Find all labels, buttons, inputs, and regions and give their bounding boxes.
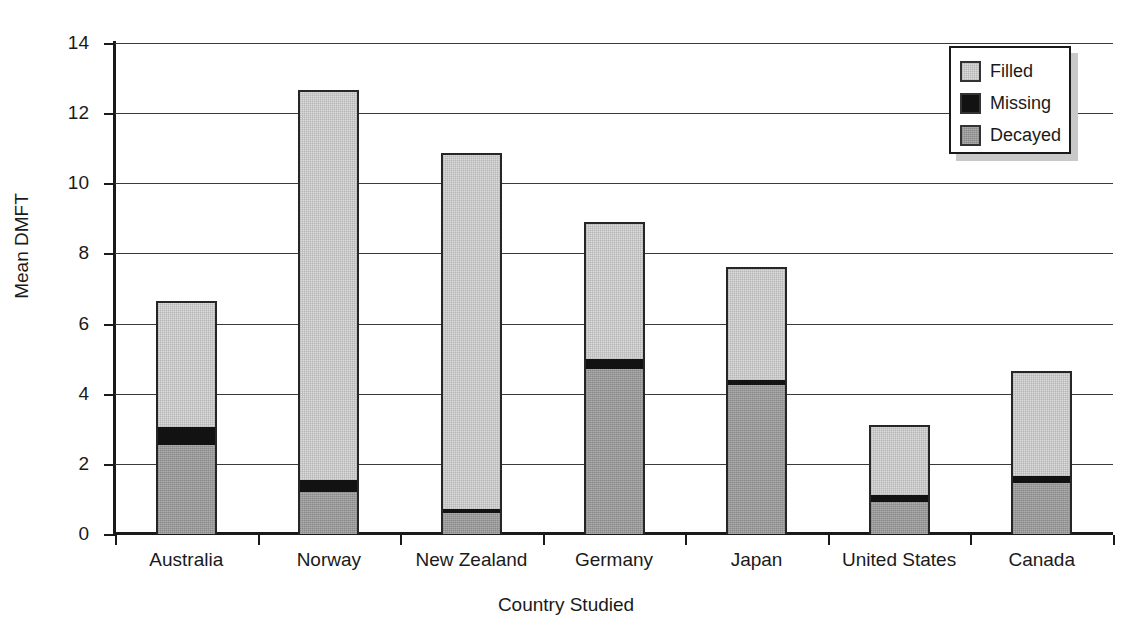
bar-segment-missing: [156, 427, 217, 445]
bar-segment-decayed: [441, 513, 502, 534]
bar-segment-decayed: [869, 502, 930, 534]
bar-norway: [298, 43, 359, 534]
bar-segment-decayed: [726, 385, 787, 534]
legend-label: Decayed: [990, 126, 1061, 144]
legend-items: FilledMissingDecayed: [960, 55, 1069, 151]
bar-segment-filled: [869, 425, 930, 495]
x-tick-mark: [970, 535, 972, 545]
y-tick-mark: [104, 183, 113, 185]
x-category-label: Japan: [685, 549, 828, 571]
y-tick-label: 0: [29, 524, 89, 543]
legend-item-filled[interactable]: Filled: [960, 55, 1069, 87]
y-tick-mark: [104, 394, 113, 396]
bar-segment-filled: [298, 90, 359, 479]
y-tick-label: 12: [29, 103, 89, 122]
bar-segment-missing: [298, 480, 359, 492]
bar-segment-missing: [441, 509, 502, 513]
y-tick-label: 2: [29, 454, 89, 473]
y-tick-label: 6: [29, 314, 89, 333]
x-category-label: United States: [828, 549, 971, 571]
x-tick-mark: [258, 535, 260, 545]
y-tick-mark: [104, 113, 113, 115]
y-tick-mark: [104, 534, 113, 536]
bar-new-zealand: [441, 43, 502, 534]
chart-figure: Mean DMFT 02468101214 AustraliaNorwayNew…: [0, 0, 1132, 633]
x-category-label: Norway: [258, 549, 401, 571]
bar-japan: [726, 43, 787, 534]
x-tick-mark: [685, 535, 687, 545]
bar-united-states: [869, 43, 930, 534]
y-tick-label: 8: [29, 243, 89, 262]
bar-australia: [156, 43, 217, 534]
bar-segment-missing: [869, 495, 930, 502]
bar-germany: [584, 43, 645, 534]
bar-segment-decayed: [156, 445, 217, 534]
y-tick-label: 14: [29, 33, 89, 52]
x-category-label: New Zealand: [400, 549, 543, 571]
bar-segment-decayed: [1011, 483, 1072, 534]
x-category-label: Canada: [970, 549, 1113, 571]
x-tick-mark: [1113, 535, 1115, 545]
bar-segment-filled: [584, 222, 645, 359]
bar-segment-decayed: [298, 492, 359, 534]
chart-legend: FilledMissingDecayed: [949, 46, 1071, 154]
x-tick-mark: [400, 535, 402, 545]
x-tick-mark: [543, 535, 545, 545]
bar-segment-missing: [726, 380, 787, 385]
x-tick-mark: [828, 535, 830, 545]
x-tick-mark: [115, 535, 117, 545]
legend-item-missing[interactable]: Missing: [960, 87, 1069, 119]
y-tick-mark: [104, 253, 113, 255]
y-tick-mark: [104, 464, 113, 466]
legend-label: Missing: [990, 94, 1051, 112]
y-tick-label: 4: [29, 384, 89, 403]
y-tick-mark: [104, 43, 113, 45]
x-axis-title: Country Studied: [0, 594, 1132, 616]
legend-label: Filled: [990, 62, 1033, 80]
y-tick-mark: [104, 324, 113, 326]
bar-segment-missing: [1011, 476, 1072, 483]
y-tick-label: 10: [29, 173, 89, 192]
filled-swatch: [960, 61, 981, 82]
bar-segment-decayed: [584, 369, 645, 534]
bar-segment-filled: [1011, 371, 1072, 476]
bar-segment-filled: [441, 153, 502, 509]
missing-swatch: [960, 93, 981, 114]
legend-item-decayed[interactable]: Decayed: [960, 119, 1069, 151]
bar-segment-filled: [726, 267, 787, 379]
decayed-swatch: [960, 125, 981, 146]
bar-segment-filled: [156, 301, 217, 427]
bar-segment-missing: [584, 359, 645, 370]
x-category-label: Germany: [543, 549, 686, 571]
x-category-label: Australia: [115, 549, 258, 571]
